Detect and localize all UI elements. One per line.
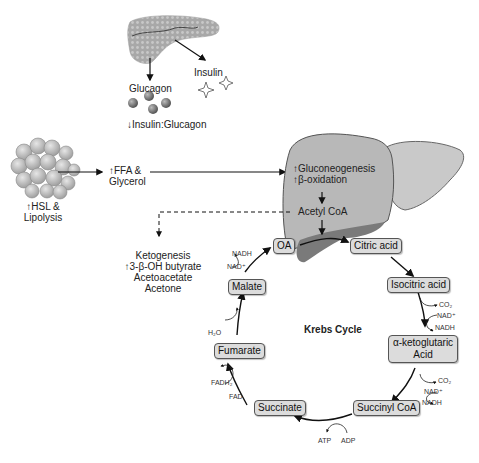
fadh2-label: FADH₂ xyxy=(211,379,232,387)
node-citric-acid: Citric acid xyxy=(350,238,402,254)
ffa-glycerol-label: ↑FFA & Glycerol xyxy=(109,165,146,187)
glucagon-molecules-icon xyxy=(128,91,171,114)
node-alpha-ketoglutaric-acid: α-ketoglutaric Acid xyxy=(388,335,458,363)
ffa-label: ↑FFA & xyxy=(109,165,146,176)
hsl-lipolysis-label: ↑HSL & Lipolysis xyxy=(8,201,78,223)
insulin-label: Insulin xyxy=(194,67,223,78)
fad-label: FAD xyxy=(229,393,243,401)
liver-process-label: ↑Gluconeogenesis ↑β-oxidation xyxy=(293,163,375,185)
ketone-acetone: Acetone xyxy=(118,283,208,294)
hsl-label: ↑HSL & xyxy=(8,201,78,212)
acetylcoa-to-ketogenesis-dashed-arrow xyxy=(159,212,290,236)
atp-label: ATP xyxy=(318,437,331,445)
isocitric-nadh-label: NADH xyxy=(435,324,455,332)
ketone-acetoacetate: Acetoacetate xyxy=(118,272,208,283)
akg-co2-label: CO₂ xyxy=(438,377,451,385)
adp-label: ADP xyxy=(341,437,355,445)
node-succinate: Succinate xyxy=(254,400,306,416)
ketone-hydroxybutyrate: ↑3-β-OH butyrate xyxy=(118,261,208,272)
h2o-label: H₂O xyxy=(208,329,221,337)
isocitric-nad-label: NAD⁺ xyxy=(437,312,456,320)
akg-nadh-label: NADH xyxy=(422,399,442,407)
adipose-tissue-icon xyxy=(11,138,80,199)
pancreas-to-insulin-arrow xyxy=(175,40,205,60)
acetyl-coa-label: Acetyl CoA xyxy=(298,206,347,217)
node-fumarate: Fumarate xyxy=(214,343,265,359)
pancreas-icon xyxy=(128,16,219,64)
insulin-molecules-icon xyxy=(198,76,233,98)
beta-oxidation-label: ↑β-oxidation xyxy=(293,174,375,185)
malate-nadh-label: NADH xyxy=(232,250,252,258)
glycerol-label: Glycerol xyxy=(109,176,146,187)
akg-line1: α-ketoglutaric xyxy=(392,337,454,349)
insulin-glucagon-ratio-label: ↓Insulin:Glucagon xyxy=(127,119,207,130)
glucagon-label: Glucagon xyxy=(129,83,172,94)
node-oa: OA xyxy=(273,238,295,254)
isocitric-co2-label: CO₂ xyxy=(439,301,452,309)
node-isocitric-acid: Isocitric acid xyxy=(387,277,450,293)
ketogenesis-title: Ketogenesis xyxy=(118,250,208,261)
node-succinyl-coa: Succinyl CoA xyxy=(353,400,420,416)
gluconeogenesis-label: ↑Gluconeogenesis xyxy=(293,163,375,174)
malate-nad-label: NAD⁺ xyxy=(227,263,246,271)
node-malate: Malate xyxy=(228,279,266,295)
ketogenesis-block: Ketogenesis ↑3-β-OH butyrate Acetoacetat… xyxy=(118,250,208,294)
lipolysis-label: Lipolysis xyxy=(8,212,78,223)
akg-line2: Acid xyxy=(392,349,454,361)
akg-nad-label: NAD⁺ xyxy=(424,388,443,396)
krebs-cycle-title: Krebs Cycle xyxy=(304,324,362,335)
